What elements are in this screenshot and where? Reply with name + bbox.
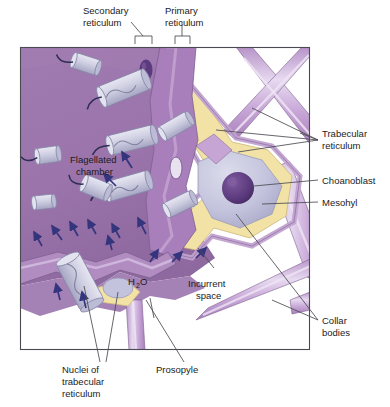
primary-reticulum-line2: reticulum	[165, 17, 204, 28]
secondary-reticulum-line1: Secondary	[83, 5, 129, 16]
label-mesohyl: Mesohyl	[322, 197, 357, 208]
collar-bodies-line1: Collar	[322, 315, 347, 326]
incurrent-space-line1: Incurrent	[188, 278, 226, 289]
collar-bodies-line2: bodies	[322, 327, 350, 338]
label-flagellated-chamber: Flagellated chamber	[70, 154, 116, 177]
illustration-body	[20, 47, 330, 350]
incurrent-space-line2: space	[196, 290, 221, 301]
secondary-reticulum-line2: reticulum	[83, 17, 122, 28]
flagellated-chamber-line2: chamber	[76, 166, 113, 177]
mesohyl-line1: Mesohyl	[322, 197, 357, 208]
label-nuclei-of-trabecular-reticulum: Nuclei of trabecular reticulum	[62, 364, 104, 399]
figure-canvas: Secondary reticulum Primary reticulum Tr…	[0, 0, 390, 407]
label-choanoblast: Choanoblast	[322, 175, 376, 186]
nuclei-line3: reticulum	[62, 388, 101, 399]
trabecular-reticulum-line1: Trabecular	[322, 128, 367, 139]
water-label-h: H	[128, 276, 135, 287]
label-trabecular-reticulum: Trabecular reticulum	[322, 128, 367, 151]
primary-reticulum-line1: Primary	[165, 5, 198, 16]
label-collar-bodies: Collar bodies	[322, 315, 350, 338]
flagellated-chamber-line1: Flagellated	[70, 154, 116, 165]
nuclei-line1: Nuclei of	[62, 364, 99, 375]
prosopyle-line1: Prosopyle	[156, 364, 198, 375]
reticulum-vacuole	[170, 157, 182, 179]
choanoblast-line1: Choanoblast	[322, 175, 376, 186]
choanoblast-nucleus	[222, 172, 254, 204]
nuclei-line2: trabecular	[62, 376, 104, 387]
trabecular-reticulum-line2: reticulum	[322, 140, 361, 151]
label-prosopyle: Prosopyle	[156, 364, 198, 375]
water-label-o: O	[140, 276, 147, 287]
